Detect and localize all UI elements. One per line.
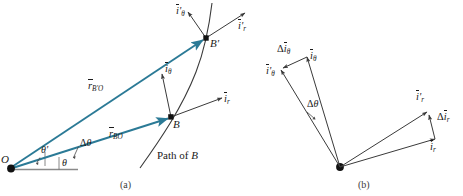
angle-label-theta-prime: θ' [41, 145, 48, 155]
subscript-r: r [243, 25, 246, 33]
point-label-O: O [1, 154, 9, 165]
i-glyph-overbar: i [310, 51, 313, 62]
unit-vector-label-i-theta-panel-a: iθ [165, 64, 171, 76]
unit-vector-i-theta-at-B [162, 74, 171, 117]
figure-root: O B B' θ θ' Δθ rB'O rBO i'θ i'r iθ ir Pa… [0, 0, 463, 196]
panel-b-unit-vector-i-r-prime [340, 112, 427, 167]
subscript-r: r [227, 98, 230, 106]
unit-vector-label-i-r-panel-b: ir [430, 142, 436, 154]
panel-b-unit-vector-i-theta-prime [281, 70, 340, 167]
path-of-B-italic-B: B [191, 149, 198, 161]
i-glyph-overbar: i [238, 21, 241, 32]
panel-b-unit-vector-i-theta [307, 57, 340, 167]
unit-vector-label-i-theta-prime-panel-a: i'θ [176, 6, 185, 18]
theta-glyph: θ [86, 137, 91, 148]
vector-label-r-BO: rBO [109, 129, 123, 141]
i-glyph-overbar: i [224, 94, 227, 105]
unit-vector-label-i-r-panel-a: ir [224, 94, 230, 106]
path-of-B-label: Path of B [157, 150, 198, 161]
point-label-B-prime: B' [210, 38, 219, 49]
i-glyph-overbar: i [444, 112, 447, 123]
subscript-r: r [447, 116, 450, 124]
subscript-theta: θ [287, 48, 291, 56]
caption-panel-a: (a) [120, 180, 131, 190]
unit-vector-label-delta-i-theta-panel-b: Δiθ [277, 44, 290, 56]
vector-label-r-BprimeO: rB'O [88, 81, 103, 93]
point-Bprime-marker [203, 35, 208, 40]
r-glyph-overbar: r [88, 81, 92, 92]
subscript-BO: BO [113, 133, 123, 141]
i-glyph-overbar: i [430, 142, 433, 153]
subscript-theta: θ [313, 55, 317, 63]
subscript-theta: θ [181, 10, 185, 18]
unit-vector-label-i-theta-prime-panel-b: i'θ [266, 66, 275, 78]
diagram-canvas [0, 0, 463, 196]
i-glyph-overbar: i [176, 6, 179, 17]
i-glyph-overbar: i [266, 66, 269, 77]
panel-b-delta-i-r [429, 115, 435, 139]
unit-vector-label-i-r-prime-panel-a: i'r [238, 21, 246, 33]
panel-b-unit-vector-i-r [340, 139, 435, 167]
angle-label-delta-theta-panel-a: Δθ [80, 138, 91, 148]
i-glyph-overbar: i [284, 44, 287, 55]
subscript-r: r [421, 96, 424, 104]
point-label-B: B [173, 119, 180, 130]
unit-vector-label-i-theta-panel-b: iθ [310, 51, 316, 63]
caption-panel-b: (b) [358, 180, 370, 190]
delta-glyph: Δ [277, 43, 284, 54]
subscript-r: r [433, 146, 436, 154]
subscript-BprimeO: B'O [92, 85, 103, 93]
panel-b-graphics [281, 57, 435, 171]
path-of-text: Path of [157, 149, 188, 161]
path-of-B-curve [140, 3, 212, 168]
theta-glyph: θ [313, 98, 318, 109]
unit-vector-label-i-r-prime-panel-b: i'r [416, 92, 424, 104]
angle-label-theta: θ [62, 158, 67, 168]
subscript-theta: θ [271, 70, 275, 78]
angle-label-delta-theta-panel-b: Δθ [307, 99, 318, 109]
i-glyph-overbar: i [165, 64, 168, 75]
delta-glyph: Δ [437, 111, 444, 122]
panel-b-delta-i-theta [283, 57, 307, 68]
unit-vector-i-theta-prime-at-Bprime [188, 12, 206, 38]
unit-vector-label-delta-i-r-panel-b: Δir [437, 112, 450, 124]
r-glyph-overbar: r [109, 129, 113, 140]
subscript-theta: θ [168, 68, 172, 76]
point-O-marker [7, 165, 15, 173]
i-glyph-overbar: i [416, 92, 419, 103]
